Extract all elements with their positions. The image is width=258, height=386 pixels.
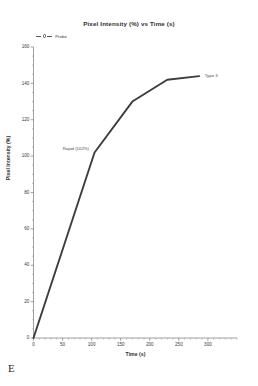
x-tick-label: 100 [88, 342, 96, 347]
annotation-label: Type 3 [205, 73, 219, 78]
x-tick-label: 300 [204, 342, 212, 347]
plot-area: 020406080100120140160 050100150200250300… [0, 0, 258, 386]
y-axis: 020406080100120140160 [22, 44, 34, 340]
x-tick-label: 200 [146, 342, 154, 347]
panel-letter-label: E [8, 362, 15, 374]
series-line-probe [34, 76, 200, 338]
annotation-label: Rapid (102%) [63, 146, 90, 151]
chart-annotations: Rapid (102%)Type 3 [63, 73, 218, 151]
x-tick-label: 0 [32, 342, 35, 347]
y-tick-label: 20 [24, 299, 30, 304]
data-series-probe [34, 76, 200, 338]
y-tick-label: 160 [22, 44, 30, 49]
y-tick-label: 60 [24, 226, 30, 231]
y-tick-label: 140 [22, 81, 30, 86]
x-tick-label: 250 [175, 342, 183, 347]
y-tick-label: 0 [27, 335, 30, 340]
y-tick-label: 100 [22, 153, 30, 158]
y-tick-label: 80 [24, 190, 30, 195]
y-tick-label: 40 [24, 262, 30, 267]
x-tick-label: 150 [117, 342, 125, 347]
figure-panel: Pixel Intensity (%) vs Time (s) Probe Pi… [0, 0, 258, 386]
y-tick-label: 120 [22, 117, 30, 122]
x-tick-label: 50 [60, 342, 66, 347]
x-axis: 050100150200250300 [32, 338, 237, 347]
